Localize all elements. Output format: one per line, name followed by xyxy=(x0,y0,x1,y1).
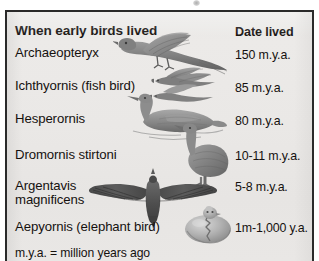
column-header-name: When early birds lived xyxy=(15,24,157,38)
bird-standing-dromornis-illustration xyxy=(171,120,235,192)
bird-name-ichthyornis: Ichthyornis (fish bird) xyxy=(15,79,135,93)
early-birds-table: When early birds lived Date lived Archae… xyxy=(5,10,314,261)
bird-name-hesperornis: Hesperornis xyxy=(15,112,85,126)
bird-date-aepyornis: 1m-1,000 y.a. xyxy=(235,221,308,235)
bird-date-archaeopteryx: 150 m.y.a. xyxy=(235,48,290,62)
bird-swimming-hesperornis-illustration xyxy=(119,92,229,142)
egg-hatching-aepyornis-illustration xyxy=(182,202,238,246)
table-body: When early birds lived Date lived Archae… xyxy=(7,12,312,261)
bird-date-argentavis-magnificens: 5-8 m.y.a. xyxy=(235,180,288,194)
bird-name-argentavis-magnificens: Argentavis magnificens xyxy=(15,179,84,208)
bird-date-dromornis-stirtoni: 10-11 m.y.a. xyxy=(235,149,300,163)
bird-name-archaeopteryx: Archaeopteryx xyxy=(15,46,99,60)
bird-gliding-ichthyornis-illustration xyxy=(145,64,229,104)
bird-date-hesperornis: 80 m.y.a. xyxy=(235,114,284,128)
scan-artifact-speck xyxy=(193,0,200,6)
column-header-date: Date lived xyxy=(235,25,294,39)
bird-name-dromornis-stirtoni: Dromornis stirtoni xyxy=(15,148,117,162)
footnote-abbreviation-key: m.y.a. = million years ago xyxy=(15,246,150,260)
bird-name-aepyornis: Aepyornis (elephant bird) xyxy=(15,220,160,234)
bird-date-ichthyornis: 85 m.y.a. xyxy=(235,81,284,95)
